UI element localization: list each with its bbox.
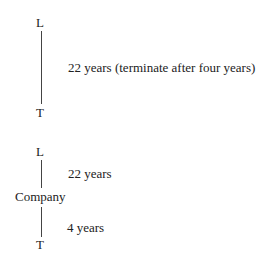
- node-l-2: L: [36, 145, 44, 158]
- edge-label-lower: 4 years: [67, 221, 104, 234]
- edge-l-company: [41, 160, 42, 188]
- edge-label-1: 22 years (terminate after four years): [68, 61, 255, 74]
- node-t-2: T: [36, 238, 44, 251]
- node-l-1: L: [36, 16, 44, 29]
- edge-label-upper: 22 years: [68, 167, 112, 180]
- edge-company-t: [41, 207, 42, 237]
- edge-l-t: [41, 31, 42, 104]
- node-t-1: T: [36, 106, 44, 119]
- node-company: Company: [15, 190, 66, 203]
